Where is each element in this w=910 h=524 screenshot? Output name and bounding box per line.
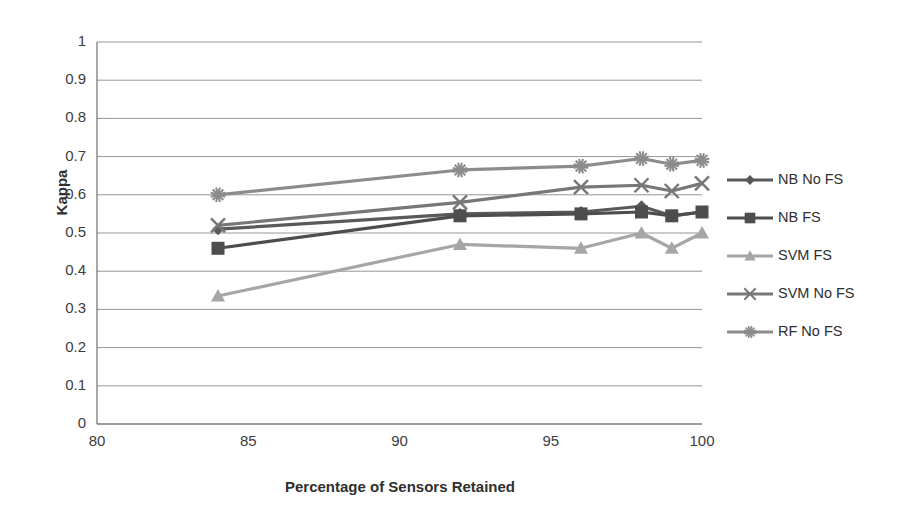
legend-label: NB FS xyxy=(778,209,821,225)
y-tick-label: 1 xyxy=(34,32,86,49)
legend-item-nb-no-fs[interactable]: NB No FS xyxy=(727,160,902,198)
x-axis-title: Percentage of Sensors Retained xyxy=(97,478,703,495)
data-point-square xyxy=(665,209,678,222)
y-tick-label: 0 xyxy=(34,414,86,431)
legend-key-triangle-icon xyxy=(727,248,773,262)
series-layer xyxy=(211,151,709,301)
kappa-vs-sensors-chart: Kappa Percentage of Sensors Retained 00.… xyxy=(0,0,910,524)
y-tick-label: 0.9 xyxy=(34,70,86,87)
gridlines xyxy=(97,42,702,424)
y-tick-label: 0.2 xyxy=(34,338,86,355)
legend-label: SVM FS xyxy=(778,247,832,263)
data-point-triangle xyxy=(635,226,649,238)
legend-label: NB No FS xyxy=(778,171,843,187)
legend-key-cross-icon xyxy=(727,286,773,300)
data-point-square xyxy=(635,205,648,218)
y-tick-label: 0.4 xyxy=(34,261,86,278)
legend-item-svm-no-fs[interactable]: SVM No FS xyxy=(727,274,902,312)
legend-label: SVM No FS xyxy=(778,285,855,301)
legend-item-nb-fs[interactable]: NB FS xyxy=(727,198,902,236)
x-tick-label: 95 xyxy=(521,432,581,449)
x-tick-label: 90 xyxy=(370,432,430,449)
legend-label: RF No FS xyxy=(778,323,842,339)
x-tick-label: 100 xyxy=(672,432,732,449)
y-tick-label: 0.5 xyxy=(34,223,86,240)
legend-item-svm-fs[interactable]: SVM FS xyxy=(727,236,902,274)
y-tick-label: 0.7 xyxy=(34,147,86,164)
y-tick-label: 0.8 xyxy=(34,108,86,125)
data-point-square xyxy=(575,207,588,220)
legend-key-diamond-icon xyxy=(727,172,773,186)
y-tick-label: 0.3 xyxy=(34,299,86,316)
data-point-diamond xyxy=(745,175,755,185)
data-point-square xyxy=(696,205,709,218)
data-point-square xyxy=(212,242,225,255)
y-tick-label: 0.6 xyxy=(34,185,86,202)
data-point-triangle xyxy=(695,226,709,238)
data-point-square xyxy=(454,209,467,222)
x-tick-label: 80 xyxy=(67,432,127,449)
chart-legend: NB No FSNB FSSVM FSSVM No FSRF No FS xyxy=(727,160,902,350)
x-tick-label: 85 xyxy=(218,432,278,449)
legend-item-rf-no-fs[interactable]: RF No FS xyxy=(727,312,902,350)
legend-key-square-icon xyxy=(727,210,773,224)
series-svm-fs xyxy=(211,226,709,301)
legend-key-star-icon xyxy=(727,324,773,338)
y-tick-label: 0.1 xyxy=(34,376,86,393)
data-point-square xyxy=(745,213,756,224)
